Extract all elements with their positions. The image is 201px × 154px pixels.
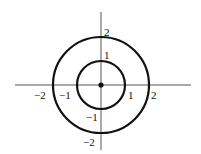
label-x-pos2: 2 (151, 89, 157, 101)
label-y-pos1: 1 (104, 49, 110, 61)
label-y-neg2: −2 (83, 136, 95, 148)
label-x-neg1: −1 (59, 89, 71, 101)
label-y-neg1: −1 (86, 111, 98, 123)
label-x-neg2: −2 (34, 89, 46, 101)
label-x-pos1: 1 (128, 89, 134, 101)
origin-dot (98, 82, 103, 87)
concentric-circles-diagram: −2 −1 1 2 2 1 −1 −2 (0, 0, 201, 154)
label-y-pos2: 2 (104, 26, 110, 38)
